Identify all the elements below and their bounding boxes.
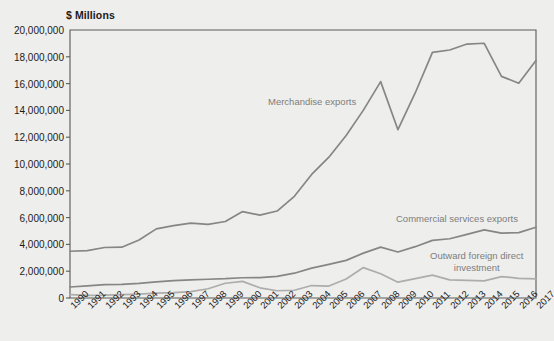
series-label-line: investment <box>430 262 523 274</box>
x-tick-label: 2011 <box>430 289 452 311</box>
series-label-2: Outward foreign directinvestment <box>430 250 523 274</box>
x-tick-label: 2017 <box>534 288 554 311</box>
series-label-0: Merchandise exports <box>268 96 356 108</box>
line-chart: $ Millions 02,000,0004,000,0006,000,0008… <box>0 0 554 341</box>
x-tick-label: 1991 <box>85 288 108 311</box>
x-tick-label: 1995 <box>154 288 177 311</box>
series-label-line: Outward foreign direct <box>430 250 523 262</box>
series-label-1: Commercial services exports <box>396 213 518 225</box>
x-axis-tick-labels: 1990199119921993199419951996199719981999… <box>0 0 554 341</box>
